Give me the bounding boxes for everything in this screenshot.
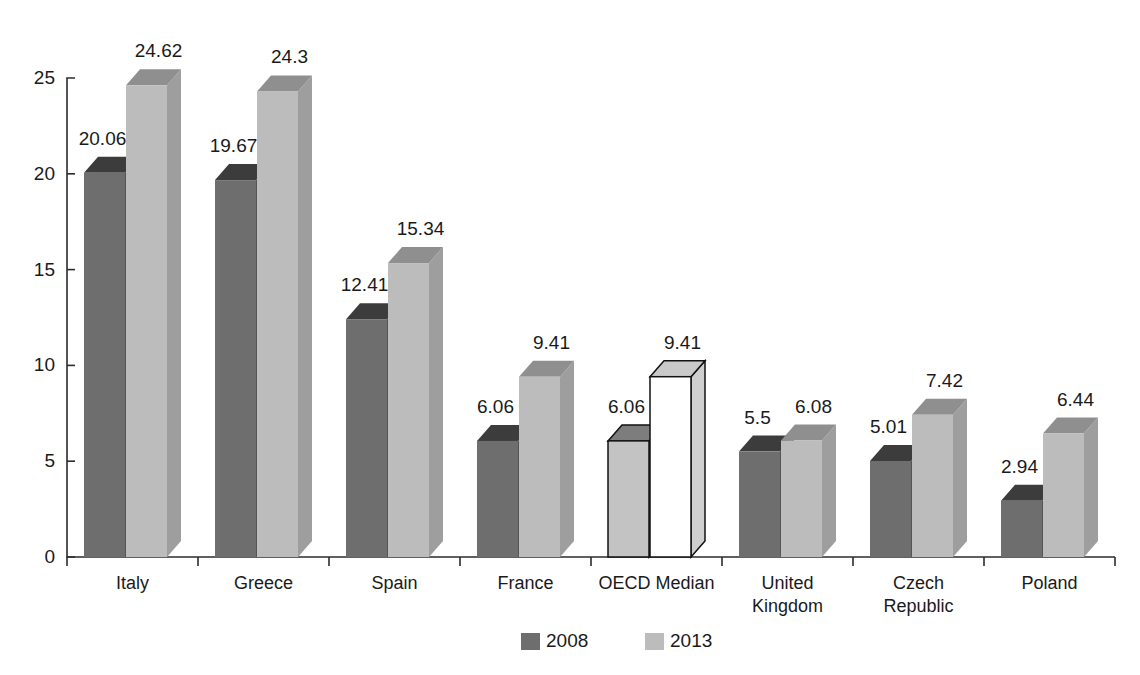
category-label: United [761, 573, 813, 593]
bar-3d [388, 247, 443, 557]
category-label: Spain [371, 573, 417, 593]
bar-3d [912, 399, 967, 557]
value-label-2013: 6.44 [1057, 389, 1094, 410]
legend-label: 2008 [546, 630, 588, 651]
bar-front-face [650, 377, 691, 557]
value-label-2013: 15.34 [397, 218, 445, 239]
bar-front-face [781, 441, 822, 557]
value-label-2008: 6.06 [608, 396, 645, 417]
bar-front-face [84, 173, 125, 557]
bar-3d [257, 75, 312, 557]
bar-side-face [822, 425, 836, 557]
value-label-2008: 2.94 [1001, 456, 1038, 477]
value-label-2008: 19.67 [210, 135, 258, 156]
chart-canvas: 0510152025 20.0624.6219.6724.312.4115.34… [0, 0, 1140, 675]
bar-3d [781, 425, 836, 557]
category-label: Republic [883, 596, 953, 616]
bar-front-face [1043, 434, 1084, 557]
bar-3d [1043, 418, 1098, 557]
value-label-2008: 6.06 [477, 396, 514, 417]
bar-3d [519, 361, 574, 557]
category-label: Greece [234, 573, 293, 593]
bar-front-face [519, 377, 560, 557]
bar-front-face [346, 319, 387, 557]
bar-side-face [298, 75, 312, 557]
value-label-2008: 12.41 [341, 274, 389, 295]
bar-side-face [429, 247, 443, 557]
y-tick-label: 25 [34, 67, 55, 88]
y-tick-label: 0 [44, 546, 55, 567]
bar-front-face [870, 461, 911, 557]
bar-front-face [477, 441, 518, 557]
category-label: Italy [116, 573, 149, 593]
value-label-2013: 6.08 [795, 396, 832, 417]
value-label-2008: 20.06 [79, 128, 127, 149]
bar-front-face [1001, 501, 1042, 557]
bar-side-face [953, 399, 967, 557]
bar-side-face [1084, 418, 1098, 557]
y-tick-label: 15 [34, 259, 55, 280]
category-label: France [497, 573, 553, 593]
bar-side-face [167, 69, 181, 557]
value-label-2013: 24.3 [271, 46, 308, 67]
value-label-2013: 9.41 [664, 332, 701, 353]
bar-chart: 0510152025 20.0624.6219.6724.312.4115.34… [0, 0, 1140, 675]
value-label-2008: 5.01 [870, 416, 907, 437]
legend-label: 2013 [670, 630, 712, 651]
y-tick-label: 20 [34, 163, 55, 184]
y-tick-label: 10 [34, 354, 55, 375]
bar-front-face [126, 85, 167, 557]
value-label-2008: 5.5 [744, 407, 770, 428]
bar-side-face [691, 361, 705, 557]
category-label: Poland [1021, 573, 1077, 593]
bar-front-face [608, 441, 649, 557]
bar-3d [126, 69, 181, 557]
bar-3d [650, 361, 705, 557]
bar-front-face [215, 180, 256, 557]
category-label: Czech [893, 573, 944, 593]
category-label: Kingdom [752, 596, 823, 616]
value-label-2013: 24.62 [135, 40, 183, 61]
bar-front-face [912, 415, 953, 557]
legend-swatch [645, 633, 664, 650]
bar-front-face [739, 452, 780, 557]
legend-swatch [521, 633, 540, 650]
bar-side-face [560, 361, 574, 557]
y-tick-label: 5 [44, 450, 55, 471]
bar-front-face [388, 263, 429, 557]
value-label-2013: 7.42 [926, 370, 963, 391]
category-label: OECD Median [598, 573, 714, 593]
bar-front-face [257, 91, 298, 557]
value-label-2013: 9.41 [533, 332, 570, 353]
